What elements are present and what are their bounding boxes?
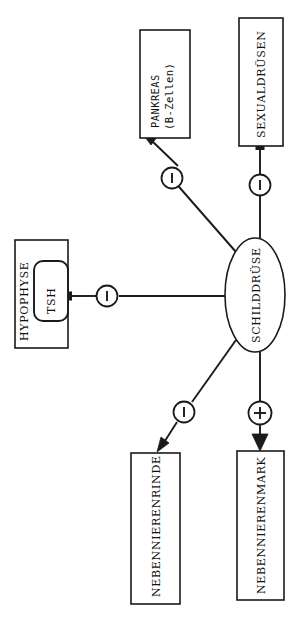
hypophyse-label: HYPOPHYSE xyxy=(18,262,31,341)
edge-line-nnr-upper xyxy=(192,340,236,402)
sign-badge-sexualdruesen[interactable] xyxy=(250,175,271,196)
schilddruese-node[interactable]: SCHILDDRÜSE xyxy=(225,238,285,352)
sign-badge-tsh[interactable] xyxy=(97,286,118,307)
pankreas-label-line1: PANKREAS xyxy=(149,74,161,128)
sign-badge-pankreas[interactable] xyxy=(162,168,183,189)
diagram-svg: PANKREAS (B-Zellen) SEXUALDRÜSEN HYPOPHY… xyxy=(0,0,303,639)
edge-group-pankreas xyxy=(142,133,236,252)
schilddruese-label: SCHILDDRÜSE xyxy=(249,247,263,343)
arrowhead-nebennierenrinde xyxy=(157,437,169,452)
tsh-node[interactable]: TSH xyxy=(34,261,68,321)
edge-group-nebennierenrinde xyxy=(157,340,236,452)
sexualdruesen-label: SEXUALDRÜSEN xyxy=(254,30,268,138)
sexualdruesen-node[interactable]: SEXUALDRÜSEN xyxy=(239,18,283,146)
diagram-canvas: PANKREAS (B-Zellen) SEXUALDRÜSEN HYPOPHY… xyxy=(0,0,303,639)
arrowhead-nebennierenmark xyxy=(252,434,268,451)
pankreas-node[interactable]: PANKREAS (B-Zellen) xyxy=(140,30,190,138)
pankreas-label-line2: (B-Zellen) xyxy=(163,63,175,130)
nebennierenmark-label: NEBENNIERENMARK xyxy=(255,456,268,594)
nebennierenmark-node[interactable]: NEBENNIERENMARK xyxy=(237,451,284,600)
nebennierenrinde-label: NEBENNIERENRINDE xyxy=(150,455,163,597)
sign-badge-nebennierenrinde[interactable] xyxy=(174,402,195,423)
edge-line-pankreas-tip xyxy=(151,140,178,166)
nebennierenrinde-node[interactable]: NEBENNIERENRINDE xyxy=(131,453,180,604)
sign-badge-nebennierenmark[interactable] xyxy=(249,402,272,425)
tsh-label: TSH xyxy=(45,287,58,314)
edge-group-tsh xyxy=(67,292,225,301)
